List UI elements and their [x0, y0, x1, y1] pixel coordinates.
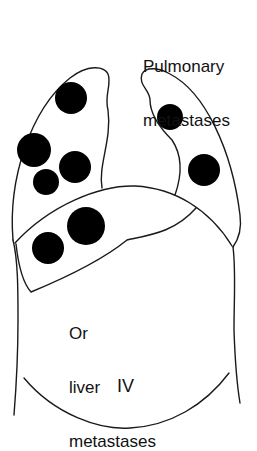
metastasis-dot: [67, 207, 105, 245]
metastasis-dot: [32, 232, 64, 264]
stage-label: IV: [117, 377, 134, 395]
metastasis-dot: [17, 133, 51, 167]
liver-metastases-label: Or liver metastases: [69, 289, 156, 451]
label-line: liver: [69, 379, 156, 397]
body-right-side: [233, 247, 240, 403]
left-lung-lesions: [17, 82, 91, 195]
metastasis-dot: [55, 82, 87, 114]
label-line: metastases: [69, 433, 156, 451]
liver-lesions: [32, 207, 105, 264]
pulmonary-metastases-label: Pulmonary metastases: [143, 22, 230, 148]
metastasis-dot: [59, 151, 91, 183]
label-line: Pulmonary: [143, 58, 230, 76]
metastasis-dot: [188, 154, 220, 186]
label-line: Or: [69, 325, 156, 343]
metastasis-dot: [33, 169, 59, 195]
body-left-side: [13, 240, 18, 415]
label-line: metastases: [143, 112, 230, 130]
